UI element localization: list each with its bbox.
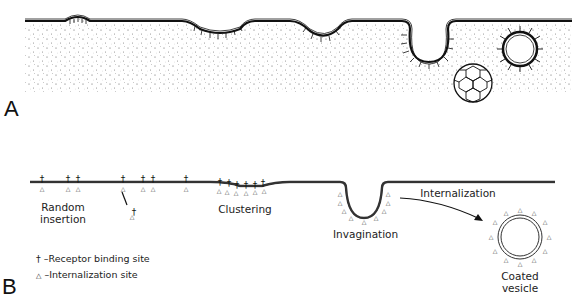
legend-receptor: † –Receptor binding site: [36, 251, 150, 267]
svg-text:△: △: [151, 185, 156, 192]
svg-text:△: △: [532, 209, 537, 216]
legend-internalization: △ –Internalization site: [36, 267, 150, 284]
svg-text:△: △: [386, 199, 391, 206]
svg-text:†: †: [184, 174, 189, 184]
receptor-symbol-icon: †: [36, 253, 41, 264]
label-random-insertion-line2: insertion: [38, 213, 88, 225]
coated-vesicle-b: △△△△△△△△△△△△: [489, 206, 552, 267]
svg-text:†: †: [121, 174, 126, 184]
svg-text:†: †: [76, 174, 81, 184]
panel-b-letter: B: [2, 274, 17, 300]
svg-text:△: △: [262, 187, 267, 194]
svg-text:△: △: [518, 206, 523, 213]
svg-text:△: △: [489, 233, 494, 240]
svg-text:†: †: [40, 174, 45, 184]
svg-text:△: △: [217, 187, 222, 194]
svg-text:†: †: [218, 177, 223, 187]
svg-text:△: △: [244, 189, 249, 196]
label-coated-vesicle-line1: Coated: [500, 270, 540, 282]
svg-text:△: △: [338, 199, 343, 206]
svg-text:△: △: [66, 185, 71, 192]
legend-receptor-text: –Receptor binding site: [44, 253, 150, 264]
label-coated-vesicle-line2: vesicle: [500, 282, 540, 294]
svg-text:△: △: [532, 256, 537, 263]
svg-text:†: †: [151, 174, 156, 184]
svg-text:△: △: [386, 190, 391, 197]
svg-text:△: △: [362, 218, 367, 225]
legend: † –Receptor binding site △ –Internalizat…: [36, 251, 150, 284]
label-random-insertion: Random insertion: [38, 201, 88, 225]
svg-text:△: △: [543, 218, 548, 225]
svg-text:△: △: [234, 189, 239, 196]
svg-text:△: △: [130, 213, 135, 220]
label-clustering: Clustering: [215, 203, 275, 215]
svg-text:△: △: [547, 233, 552, 240]
label-internalization: Internalization: [418, 187, 498, 199]
svg-text:△: △: [184, 185, 189, 192]
svg-text:†: †: [227, 178, 232, 188]
internalization-arrow: [400, 198, 480, 219]
svg-text:△: △: [493, 218, 498, 225]
svg-text:△: △: [504, 209, 509, 216]
label-random-insertion-line1: Random: [38, 201, 88, 213]
svg-text:†: †: [66, 174, 71, 184]
svg-text:△: △: [40, 185, 45, 192]
svg-text:△: △: [349, 214, 354, 221]
svg-text:△: △: [342, 207, 347, 214]
svg-text:△: △: [338, 190, 343, 197]
panel-a-letter: A: [4, 96, 19, 122]
svg-text:△: △: [518, 260, 523, 267]
insertion-arrow: [122, 192, 127, 205]
svg-text:△: △: [374, 214, 379, 221]
label-coated-vesicle: Coated vesicle: [500, 270, 540, 294]
svg-text:△: △: [76, 185, 81, 192]
legend-internalization-text: –Internalization site: [44, 269, 137, 280]
svg-text:△: △: [493, 247, 498, 254]
label-invagination: Invagination: [333, 228, 397, 240]
svg-text:△: △: [141, 185, 146, 192]
svg-text:†: †: [141, 174, 146, 184]
svg-text:△: △: [504, 256, 509, 263]
triangle-symbol-icon: △: [36, 272, 41, 280]
svg-text:△: △: [253, 188, 258, 195]
svg-text:△: △: [121, 185, 126, 192]
svg-text:△: △: [225, 188, 230, 195]
svg-text:△: △: [382, 207, 387, 214]
svg-text:△: △: [543, 247, 548, 254]
